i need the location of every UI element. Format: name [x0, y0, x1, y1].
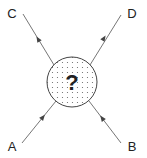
- label-a: A: [8, 139, 17, 154]
- line-a: [22, 101, 56, 143]
- line-d: [90, 15, 121, 65]
- scattering-diagram: ? C D A B: [0, 0, 147, 158]
- label-b: B: [128, 139, 137, 154]
- label-c: C: [7, 6, 16, 21]
- arrow-c-icon: [34, 35, 41, 43]
- center-symbol: ?: [65, 70, 78, 95]
- label-d: D: [127, 6, 136, 21]
- line-b: [89, 101, 121, 143]
